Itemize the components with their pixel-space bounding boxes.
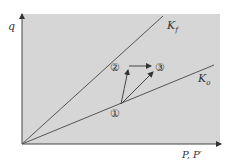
point-3-label: ③ xyxy=(155,61,165,74)
x-axis-label: P, P′ xyxy=(181,149,203,160)
y-axis-label: q xyxy=(8,20,15,33)
plot-background xyxy=(22,14,220,144)
point-2-label: ② xyxy=(110,61,120,74)
stress-path-diagram: q P, P′ Kf Ko ① ② ③ xyxy=(0,0,234,165)
point-1-label: ① xyxy=(110,107,120,120)
